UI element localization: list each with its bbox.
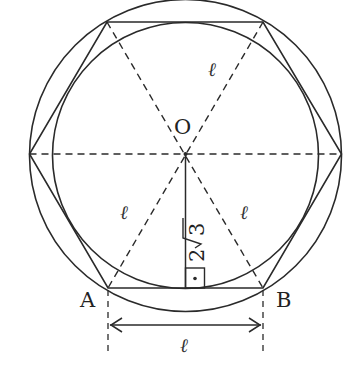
apothem-radicand: 3 [185, 223, 209, 236]
label-ell-left-radius: ℓ [120, 201, 128, 223]
label-ell-right-radius: ℓ [240, 201, 248, 223]
dimension-arrow [110, 318, 261, 332]
label-center-O: O [174, 115, 191, 139]
right-angle-dot [193, 277, 197, 281]
label-vertex-B: B [276, 288, 291, 312]
hexagon-diagram: O A B ℓ ℓ ℓ ℓ 2 3 [0, 0, 348, 370]
label-ell-top-radius: ℓ [208, 58, 216, 80]
label-vertex-A: A [79, 288, 96, 312]
apothem-coefficient: 2 [185, 249, 209, 262]
label-ell-bottom-dimension: ℓ [180, 334, 188, 356]
apothem-label: 2 3 [183, 218, 209, 262]
